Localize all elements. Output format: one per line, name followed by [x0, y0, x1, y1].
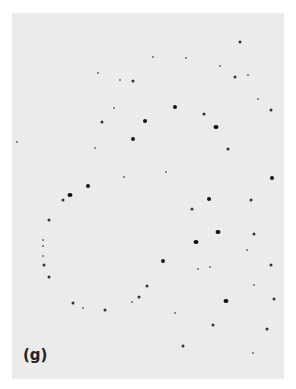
spot: [234, 76, 237, 79]
spot: [252, 352, 254, 354]
spot: [43, 264, 46, 267]
spot: [239, 41, 242, 44]
spot: [113, 107, 115, 109]
figure-label: (g): [23, 346, 47, 364]
spot: [146, 285, 149, 288]
spot: [182, 345, 185, 348]
spot: [72, 302, 75, 305]
spot: [123, 176, 125, 178]
spot: [257, 98, 259, 100]
spot: [131, 137, 135, 141]
spot: [174, 312, 176, 314]
spot: [227, 148, 230, 151]
spot: [253, 284, 255, 286]
spot: [138, 296, 141, 299]
spot: [191, 208, 194, 211]
spot: [250, 199, 253, 202]
spot: [94, 147, 96, 149]
spot: [48, 276, 51, 279]
spot: [209, 266, 211, 268]
spot: [132, 80, 135, 83]
spot: [194, 240, 199, 244]
spot: [152, 56, 154, 58]
spot: [119, 79, 121, 81]
spot: [246, 249, 248, 251]
spot: [270, 264, 273, 267]
spot: [253, 233, 256, 236]
spot: [273, 298, 276, 301]
spot: [203, 113, 206, 116]
spot: [247, 74, 249, 76]
spot: [42, 239, 44, 241]
spot: [270, 176, 274, 180]
spot: [266, 328, 269, 331]
spot: [16, 141, 18, 143]
spot: [197, 268, 199, 270]
spot: [42, 255, 44, 257]
image-panel: [12, 13, 284, 379]
spot: [82, 307, 84, 309]
spot: [212, 324, 215, 327]
spot: [42, 245, 44, 247]
spot: [224, 299, 229, 303]
spot: [48, 219, 51, 222]
spot: [86, 184, 90, 188]
spot: [104, 309, 107, 312]
spot: [173, 105, 177, 109]
spot: [62, 199, 65, 202]
spot: [165, 171, 167, 173]
spot: [216, 230, 221, 234]
spot: [219, 65, 221, 67]
spot: [185, 57, 187, 59]
spot: [214, 125, 219, 129]
spot: [207, 197, 211, 201]
spot: [143, 119, 147, 123]
spot: [161, 259, 165, 263]
spot: [101, 121, 104, 124]
spot: [97, 72, 99, 74]
spot: [131, 301, 133, 303]
spot: [68, 193, 73, 197]
spot: [270, 109, 273, 112]
